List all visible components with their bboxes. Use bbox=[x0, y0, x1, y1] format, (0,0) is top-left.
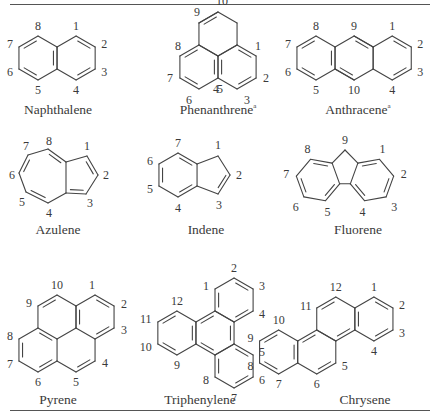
position-number: 6 bbox=[285, 65, 291, 79]
position-number: 6 bbox=[293, 200, 299, 214]
position-number: 2 bbox=[401, 167, 407, 181]
position-number: 3 bbox=[399, 326, 405, 340]
triphenylene-structure: 123456789101112Triphenylene bbox=[140, 261, 265, 407]
position-number: 3 bbox=[121, 323, 127, 337]
position-number: 10 bbox=[51, 278, 63, 292]
position-number: 4 bbox=[259, 307, 265, 321]
position-number: 2 bbox=[417, 37, 423, 51]
position-number: 4 bbox=[371, 344, 377, 358]
position-number: 5 bbox=[325, 205, 331, 219]
position-number: 10 bbox=[216, 0, 228, 8]
position-number: 9 bbox=[351, 19, 357, 33]
position-number: 1 bbox=[84, 139, 90, 153]
position-number: 3 bbox=[101, 65, 107, 79]
position-number: 9 bbox=[248, 331, 254, 345]
position-number: 5 bbox=[19, 195, 25, 209]
position-number: 7 bbox=[7, 37, 13, 51]
position-number: 7 bbox=[23, 139, 29, 153]
position-number: 8 bbox=[304, 142, 310, 156]
position-number: 5 bbox=[73, 375, 79, 389]
position-number: 4 bbox=[359, 205, 365, 219]
position-number: 7 bbox=[167, 71, 173, 85]
position-number: 6 bbox=[314, 377, 320, 391]
compound-name: Azulene bbox=[36, 222, 81, 237]
position-number: 12 bbox=[171, 294, 183, 308]
position-number: 8 bbox=[313, 19, 319, 33]
position-number: 3 bbox=[417, 65, 423, 79]
footnote-marker: a bbox=[388, 102, 392, 110]
position-number: 9 bbox=[342, 133, 348, 147]
position-number: 5 bbox=[342, 359, 348, 373]
chrysene-structure: 123456789101112Chrysene bbox=[248, 280, 405, 407]
position-number: 1 bbox=[255, 39, 261, 53]
position-number: 6 bbox=[7, 65, 13, 79]
position-number: 4 bbox=[389, 83, 395, 97]
position-number: 6 bbox=[147, 154, 153, 168]
position-number: 3 bbox=[391, 200, 397, 214]
compound-name: Phenanthrenea bbox=[180, 102, 257, 117]
position-number: 4 bbox=[46, 206, 52, 220]
position-number: 2 bbox=[263, 71, 269, 85]
position-number: 8 bbox=[203, 373, 209, 387]
position-number: 9 bbox=[194, 5, 200, 19]
position-number: 3 bbox=[87, 196, 93, 210]
position-number: 8 bbox=[175, 39, 181, 53]
position-number: 1 bbox=[389, 19, 395, 33]
structures-figure: 81234567Naphthalene91087651234Phenanthre… bbox=[0, 0, 440, 415]
position-number: 8 bbox=[35, 19, 41, 33]
position-number: 1 bbox=[203, 279, 209, 293]
compound-name: Chrysene bbox=[340, 392, 391, 407]
position-number: 7 bbox=[175, 136, 181, 150]
position-number: 4 bbox=[73, 83, 79, 97]
anthracene-structure: 89123410567Anthracenea bbox=[285, 19, 423, 117]
position-number: 7 bbox=[7, 357, 13, 371]
position-number: 2 bbox=[236, 168, 242, 182]
pyrene-structure: 12345678910Pyrene bbox=[7, 278, 127, 407]
compound-name: Triphenylene bbox=[164, 392, 236, 407]
position-number: 10 bbox=[140, 340, 152, 354]
position-number: 12 bbox=[330, 280, 342, 294]
position-number: 8 bbox=[248, 359, 254, 373]
position-number: 6 bbox=[35, 375, 41, 389]
compound-name: Pyrene bbox=[39, 392, 77, 407]
position-number: 9 bbox=[26, 296, 32, 310]
position-number: 8 bbox=[46, 134, 52, 148]
position-number: 3 bbox=[216, 198, 222, 212]
position-number: 3 bbox=[259, 279, 265, 293]
position-number: 4 bbox=[175, 201, 181, 215]
position-number: 1 bbox=[371, 280, 377, 294]
indene-structure: 1234567Indene bbox=[147, 136, 242, 237]
position-number: 7 bbox=[283, 167, 289, 181]
position-number: 2 bbox=[399, 298, 405, 312]
compound-name: Fluorene bbox=[334, 222, 382, 237]
position-number: 9 bbox=[174, 358, 180, 372]
position-number: 6 bbox=[259, 373, 265, 387]
position-number: 1 bbox=[73, 19, 79, 33]
azulene-structure: 12345678Azulene bbox=[9, 134, 109, 237]
position-number: 5 bbox=[35, 83, 41, 97]
position-number: 2 bbox=[121, 297, 127, 311]
position-number: 2 bbox=[103, 168, 109, 182]
position-number: 10 bbox=[348, 83, 360, 97]
position-number: 2 bbox=[231, 261, 237, 275]
footnote-marker: a bbox=[253, 102, 257, 110]
position-number: 6 bbox=[9, 168, 15, 182]
position-number: 5 bbox=[147, 182, 153, 196]
position-number: 1 bbox=[380, 142, 386, 156]
position-number: 1 bbox=[89, 278, 95, 292]
position-number: 1 bbox=[215, 138, 221, 152]
fluorene-structure: 912345678Fluorene bbox=[283, 133, 406, 237]
position-number: 11 bbox=[140, 312, 152, 326]
position-number: 2 bbox=[101, 37, 107, 51]
position-number: 4 bbox=[213, 82, 219, 96]
position-number: 7 bbox=[276, 377, 282, 391]
position-number: 4 bbox=[102, 356, 108, 370]
compound-name: Indene bbox=[188, 222, 225, 237]
position-number: 11 bbox=[300, 299, 312, 313]
position-number: 7 bbox=[285, 37, 291, 51]
position-number: 8 bbox=[7, 329, 13, 343]
position-number: 5 bbox=[313, 83, 319, 97]
phenanthrene-structure: 91087651234Phenanthrenea bbox=[167, 0, 269, 117]
naphthalene-structure: 81234567Naphthalene bbox=[7, 19, 107, 117]
position-number: 10 bbox=[273, 313, 285, 327]
